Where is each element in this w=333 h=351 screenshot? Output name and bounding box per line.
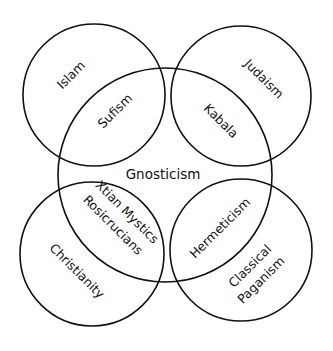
label-hermeticism: Hermeticism (186, 194, 253, 261)
label-christianity: Christianity (47, 240, 109, 302)
circle-judaism (171, 26, 311, 166)
venn-svg: Islam Sufism Judaism Kabala Gnosticism X… (0, 0, 333, 351)
label-sufism: Sufism (95, 91, 136, 132)
label-islam: Islam (54, 58, 88, 92)
venn-diagram: Islam Sufism Judaism Kabala Gnosticism X… (0, 0, 333, 351)
label-judaism: Judaism (241, 55, 287, 101)
label-gnosticism: Gnosticism (126, 166, 201, 182)
label-kabala: Kabala (201, 101, 242, 142)
